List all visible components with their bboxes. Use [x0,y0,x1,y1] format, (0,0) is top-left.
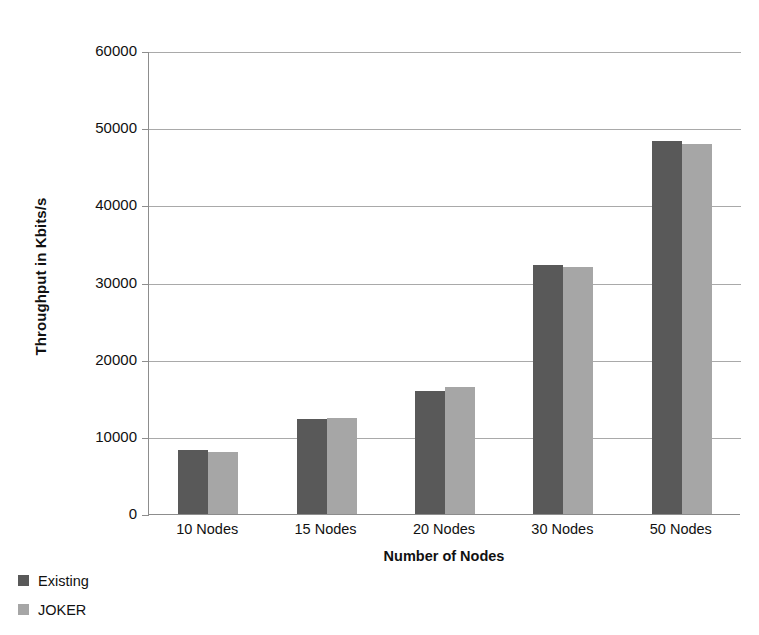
plot-area: 6000050000400003000020000100000 [148,52,740,515]
y-axis-tick-mark [142,284,149,285]
y-axis-tick-mark [142,361,149,362]
bar-existing-15nodes [297,419,327,514]
legend-swatch-icon [18,604,29,615]
y-axis-tick-label: 0 [45,505,137,522]
legend-label: Existing [38,573,89,589]
y-axis-tick-mark [142,52,149,53]
y-axis-tick-mark [142,515,149,516]
bar-joker-30nodes [563,267,593,514]
bar-existing-20nodes [415,391,445,514]
y-axis-tick-mark [142,129,149,130]
bar-existing-30nodes [533,265,563,514]
bar-existing-50nodes [652,141,682,514]
y-axis-tick-mark [142,206,149,207]
y-axis-tick-label: 50000 [45,119,137,136]
gridline [149,129,741,130]
legend: ExistingJOKER [18,566,89,624]
x-axis-title: Number of Nodes [148,548,740,564]
legend-label: JOKER [38,602,86,618]
bar-joker-50nodes [682,144,712,514]
x-axis-tick-label: 50 Nodes [621,521,741,537]
legend-item: JOKER [18,595,89,624]
x-axis-tick-label: 15 Nodes [266,521,386,537]
bar-joker-15nodes [327,418,357,514]
x-axis-tick-label: 10 Nodes [147,521,267,537]
bar-joker-20nodes [445,387,475,514]
x-axis-tick-label: 30 Nodes [502,521,622,537]
legend-item: Existing [18,566,89,595]
x-axis-tick-label: 20 Nodes [384,521,504,537]
y-axis-tick-label: 30000 [45,274,137,291]
legend-swatch-icon [18,575,29,586]
bar-chart-figure: Throughput in Kbits/s 600005000040000300… [0,0,759,635]
y-axis-tick-mark [142,438,149,439]
y-axis-tick-label: 10000 [45,428,137,445]
gridline [149,52,741,53]
bar-joker-10nodes [208,452,238,514]
y-axis-tick-label: 20000 [45,351,137,368]
bar-existing-10nodes [178,450,208,514]
y-axis-tick-label: 40000 [45,196,137,213]
y-axis-tick-label: 60000 [45,42,137,59]
